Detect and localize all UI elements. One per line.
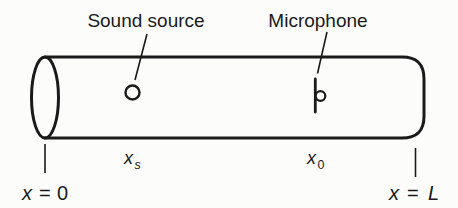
x-equals-0-sign: = (39, 182, 51, 204)
tube-left-opening (32, 57, 59, 138)
sound-source-label: Sound source (87, 10, 204, 31)
x-equals-0-value: 0 (57, 182, 68, 204)
leader-line-microphone (318, 32, 328, 74)
sound-source-marker (126, 86, 140, 100)
microphone-label: Microphone (268, 10, 367, 31)
x0-label-sub: 0 (318, 158, 325, 172)
x-equals-L-sign: = (407, 182, 419, 204)
xs-label-var: x (123, 148, 134, 168)
diagram-canvas: Sound source Microphone x s x 0 x = 0 x … (0, 0, 458, 208)
x-equals-0-var: x (21, 182, 33, 204)
tube-diagram: Sound source Microphone x s x 0 x = 0 x … (0, 0, 458, 208)
tube-body (45, 57, 424, 138)
xs-label-sub: s (135, 158, 141, 172)
x0-label-var: x (306, 148, 317, 168)
x-equals-L-value: L (428, 182, 439, 204)
x-equals-L-var: x (388, 182, 400, 204)
microphone-marker (316, 91, 326, 101)
